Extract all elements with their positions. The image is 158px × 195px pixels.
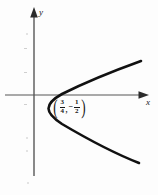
scan-speck bbox=[26, 33, 28, 35]
y-axis-label: y bbox=[39, 8, 43, 17]
parabola-figure: y x ( 3 4 , − 1 2 ) bbox=[0, 0, 158, 195]
vertex-coordinate-label: ( 3 4 , − 1 2 ) bbox=[52, 99, 87, 115]
minus-sign: − bbox=[69, 103, 74, 111]
plot-canvas bbox=[0, 0, 158, 195]
y-denominator: 2 bbox=[74, 107, 80, 115]
x-numerator: 3 bbox=[60, 99, 66, 106]
tick-mark bbox=[24, 72, 27, 73]
y-coordinate-fraction: 1 2 bbox=[74, 99, 80, 115]
tick-mark bbox=[24, 104, 27, 105]
coordinate-comma: , bbox=[66, 106, 68, 115]
x-coordinate-fraction: 3 4 bbox=[60, 99, 66, 115]
scan-speck bbox=[26, 137, 28, 139]
scan-speck bbox=[26, 150, 28, 152]
up-arrow-icon bbox=[30, 7, 38, 18]
close-paren: ) bbox=[81, 99, 85, 115]
x-denominator: 4 bbox=[60, 107, 66, 115]
tick-mark bbox=[24, 48, 27, 49]
x-axis-label: x bbox=[146, 98, 150, 107]
y-numerator: 1 bbox=[74, 99, 80, 106]
open-paren: ( bbox=[53, 99, 57, 115]
scan-speck bbox=[27, 182, 29, 184]
